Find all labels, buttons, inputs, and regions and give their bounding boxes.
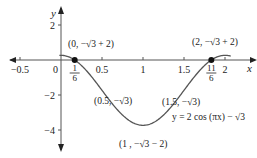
fraction-numerator: 11 — [207, 63, 216, 73]
y-axis-arrow-down — [58, 144, 64, 152]
x-tick-label: 1 — [141, 64, 146, 75]
x-tick-label: −0.5 — [11, 64, 29, 75]
x-tick-label: 0.5 — [96, 64, 109, 75]
y-tick-label: 2 — [50, 20, 55, 31]
x-axis-arrow-left — [9, 57, 16, 63]
x-tick-label: 2 — [223, 64, 228, 75]
point-annotation: (0.5, −√3) — [94, 96, 132, 107]
origin-label: 0 — [53, 64, 58, 75]
x-tick-label: 1.5 — [178, 64, 191, 75]
point-annotation: (2, −√3 + 2) — [192, 37, 238, 48]
point-annotation: (1 , −√3 − 2) — [119, 139, 167, 150]
y-axis-label: y — [50, 7, 56, 19]
y-tick-label: −2 — [44, 90, 55, 101]
point-annotation: (0, −√3 + 2) — [68, 39, 114, 50]
function-label: y = 2 cos (πx) − √3 — [172, 112, 245, 123]
y-tick-label: −4 — [44, 125, 55, 136]
fraction-denominator: 6 — [209, 73, 214, 83]
x-intercept-point — [72, 57, 78, 63]
function-graph: −0.50.511.522−2−416116 (0, −√3 + 2)(2, −… — [0, 0, 257, 158]
fraction-numerator: 1 — [72, 63, 77, 73]
fraction-denominator: 6 — [72, 73, 77, 83]
x-axis-label: x — [246, 62, 252, 74]
point-annotations: (0, −√3 + 2)(2, −√3 + 2)(0.5, −√3)(1.5, … — [68, 37, 238, 150]
point-annotation: (1.5, −√3) — [162, 97, 200, 108]
x-intercept-point — [208, 57, 214, 63]
y-axis-arrow-up — [58, 6, 64, 14]
